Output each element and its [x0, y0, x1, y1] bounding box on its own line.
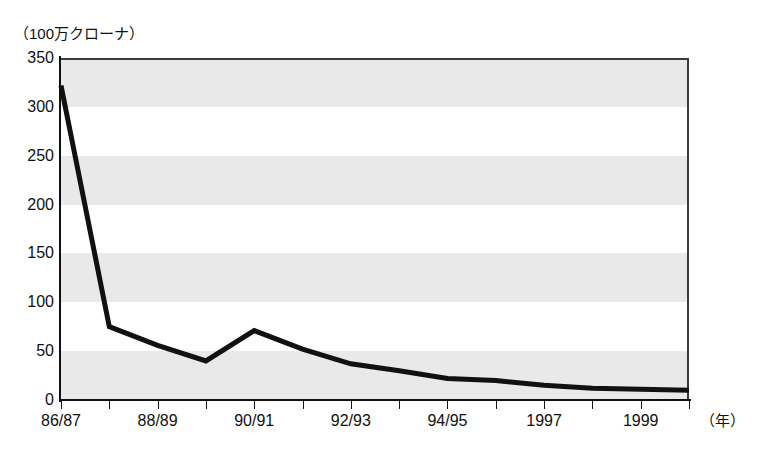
x-tick-label: 88/89: [138, 412, 178, 430]
line-chart: （100万クローナ） 050100150200250300350 86/8788…: [0, 0, 759, 456]
gridband-layer: [61, 58, 689, 400]
y-tick-label: 100: [2, 294, 54, 310]
x-tick-mark: [689, 400, 690, 409]
y-tick-label: 50: [2, 343, 54, 359]
x-tick-label: 94/95: [427, 412, 467, 430]
plot-area: [61, 58, 689, 400]
x-tick-mark: [109, 400, 110, 409]
grid-band: [61, 253, 689, 302]
y-tick-label: 350: [2, 50, 54, 66]
x-tick-label: 1999: [623, 412, 659, 430]
x-tick-mark: [158, 400, 159, 409]
plot-frame-right-border: [687, 58, 689, 400]
plot-frame-top-border: [61, 58, 689, 60]
y-axis-tick-labels: 050100150200250300350: [0, 0, 54, 456]
x-tick-mark: [351, 400, 352, 409]
y-axis-line: [59, 56, 61, 402]
y-tick-label: 300: [2, 99, 54, 115]
x-tick-mark: [61, 400, 62, 409]
y-tick-label: 150: [2, 245, 54, 261]
x-tick-label: 1997: [526, 412, 562, 430]
x-tick-mark: [303, 400, 304, 409]
x-tick-mark: [254, 400, 255, 409]
x-tick-label: 90/91: [234, 412, 274, 430]
x-tick-mark: [447, 400, 448, 409]
x-tick-mark: [496, 400, 497, 409]
x-axis-unit-caption: （年）: [700, 412, 745, 430]
x-tick-label: 92/93: [331, 412, 371, 430]
y-tick-label: 250: [2, 148, 54, 164]
y-tick-label: 200: [2, 197, 54, 213]
grid-band: [61, 58, 689, 107]
x-tick-mark: [592, 400, 593, 409]
x-tick-label: 86/87: [41, 412, 81, 430]
x-tick-mark: [206, 400, 207, 409]
grid-band: [61, 351, 689, 400]
x-tick-mark: [641, 400, 642, 409]
x-tick-mark: [544, 400, 545, 409]
y-tick-label: 0: [2, 392, 54, 408]
grid-band: [61, 156, 689, 205]
x-tick-mark: [399, 400, 400, 409]
x-axis-line: [59, 399, 691, 401]
